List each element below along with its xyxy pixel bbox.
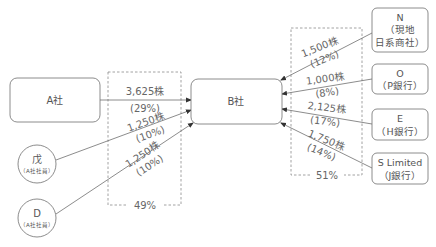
edge-pct-label: (8%): [315, 85, 340, 99]
node-bo: 戊 （A社社員）: [18, 145, 56, 183]
node-line1: S Limited: [378, 157, 422, 168]
node-sub: （A社社員）: [20, 221, 54, 229]
edge-pct-label: (17%): [310, 114, 341, 129]
node-name: 戊: [32, 154, 42, 165]
edge-shares-label: 2,125株: [307, 99, 347, 116]
edge-a-to-b: 3,625株 (29%): [100, 85, 191, 114]
edge-e-to-b: 2,125株 (17%): [282, 99, 372, 130]
right-group-total: 51%: [316, 170, 338, 181]
node-line2: （J銀行）: [379, 170, 422, 181]
node-n: N （現地 日系商社）: [372, 8, 428, 52]
node-line3: 日系商社）: [375, 37, 425, 48]
node-s-limited: S Limited （J銀行）: [372, 153, 428, 184]
node-line1: N: [396, 12, 403, 23]
node-b-company: B社: [191, 79, 282, 124]
node-line2: （P銀行）: [377, 80, 423, 91]
shareholding-diagram: 49% 51% 3,625株 (29%) 1,250株 (10%) 1,250株…: [0, 0, 436, 247]
node-line2: （H銀行）: [376, 126, 423, 137]
node-line2: （現地: [385, 24, 415, 35]
edge-o-to-b: 1,000株 (8%): [282, 69, 372, 100]
node-a-company: A社: [10, 78, 100, 122]
node-line1: E: [397, 113, 403, 124]
node-line1: O: [396, 68, 403, 79]
edge-s-to-b: 1,750株 (14%): [281, 123, 372, 168]
node-name: D: [33, 208, 41, 219]
left-group-total: 49%: [134, 200, 156, 211]
edge-d-to-b: 1,250株 (10%): [56, 123, 193, 214]
node-d: D （A社社員）: [18, 199, 56, 237]
node-e: E （H銀行）: [372, 109, 428, 140]
node-label: B社: [228, 95, 245, 107]
edge-shares-label: 3,625株: [126, 85, 165, 97]
node-sub: （A社社員）: [20, 167, 54, 175]
node-o: O （P銀行）: [372, 64, 428, 94]
node-label: A社: [47, 94, 64, 106]
